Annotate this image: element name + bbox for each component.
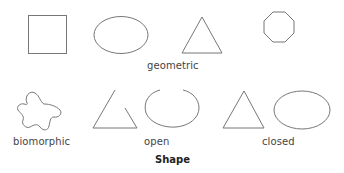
square-shape <box>29 16 67 54</box>
shape-diagram <box>0 0 344 173</box>
figure-title: Shape <box>155 154 190 165</box>
octagon-shape <box>264 12 294 42</box>
closed-label: closed <box>262 136 295 147</box>
geometric-label: geometric <box>147 60 199 71</box>
ellipse-shape <box>94 17 148 54</box>
closed-triangle-shape <box>223 91 264 128</box>
open-triangle-shape <box>93 90 137 128</box>
biomorphic-blob-shape <box>18 92 61 130</box>
biomorphic-label: biomorphic <box>13 136 70 147</box>
open-label: open <box>144 136 169 147</box>
triangle-shape <box>182 17 222 53</box>
closed-ellipse-shape <box>274 91 330 129</box>
open-ellipse-shape <box>145 90 199 127</box>
